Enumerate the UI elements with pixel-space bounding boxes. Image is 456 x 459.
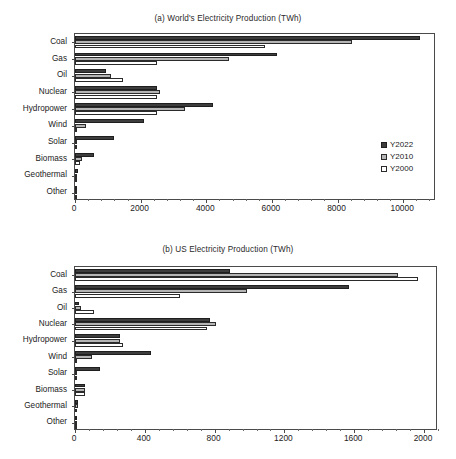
chart-title-b: (b) US Electricity Production (TWh) [0, 245, 456, 254]
y-tick [72, 308, 75, 309]
x-tick-minor [382, 429, 383, 431]
x-tick-minor [351, 199, 352, 201]
y-tick [72, 176, 75, 177]
x-axis-labels-b: 0400800120016002000 [0, 433, 456, 447]
x-tick-minor [229, 429, 230, 431]
x-axis-tick-label: 400 [137, 433, 151, 443]
legend-swatch-y2010-icon [381, 154, 387, 160]
y-tick [72, 42, 75, 43]
chart-panel-a: (a) World's Electricity Production (TWh)… [0, 0, 456, 230]
x-tick-minor [438, 429, 439, 431]
y-axis-labels-a: CoalGasOilNuclearHydropowerWindSolarBiom… [0, 33, 71, 200]
x-tick-minor [193, 199, 194, 201]
x-tick-minor [396, 429, 397, 431]
x-tick-minor [312, 429, 313, 431]
y-axis-label-geothermal: Geothermal [24, 170, 67, 179]
x-tick-minor [128, 199, 129, 201]
x-tick-minor [285, 199, 286, 201]
x-axis-tick-label: 800 [207, 433, 221, 443]
x-tick-minor [410, 429, 411, 431]
y-tick [72, 357, 75, 358]
x-tick-minor [117, 429, 118, 431]
x-tick-minor [173, 429, 174, 431]
y-axis-label-coal: Coal [50, 270, 67, 279]
y-axis-label-geothermal: Geothermal [24, 401, 67, 410]
legend-label-y2000: Y2000 [390, 165, 413, 173]
y-tick [72, 59, 75, 60]
y-axis-label-oil: Oil [57, 70, 67, 79]
y-axis-label-coal: Coal [50, 37, 67, 46]
y-axis-label-other: Other [47, 187, 67, 196]
y-axis-label-wind: Wind [48, 120, 67, 129]
y-tick [72, 193, 75, 194]
y-tick [72, 292, 75, 293]
x-tick-minor [429, 199, 430, 201]
x-axis-tick-label: 2000 [414, 433, 433, 443]
x-tick-minor [187, 429, 188, 431]
x-tick-minor [89, 429, 90, 431]
y-tick [72, 126, 75, 127]
legend-label-y2022: Y2022 [390, 141, 413, 149]
x-tick-minor [114, 199, 115, 201]
x-axis-tick-label: 0 [72, 203, 77, 213]
y-axis-label-hydropower: Hydropower [23, 104, 67, 113]
x-tick-minor [364, 199, 365, 201]
y-axis-label-oil: Oil [57, 303, 67, 312]
x-tick-minor [377, 199, 378, 201]
y-tick [72, 275, 75, 276]
x-tick-minor [180, 199, 181, 201]
x-axis-tick-label: 6000 [262, 203, 281, 213]
y-tick [72, 341, 75, 342]
chart-panel-b: (b) US Electricity Production (TWh) Coal… [0, 230, 456, 459]
x-axis-tick-label: 8000 [327, 203, 346, 213]
legend-a: Y2022 Y2010 Y2000 [381, 139, 413, 175]
y-axis-label-gas: Gas [52, 54, 67, 63]
x-tick-minor [243, 429, 244, 431]
y-tick [72, 76, 75, 77]
legend-label-y2010: Y2010 [390, 153, 413, 161]
y-axis-label-solar: Solar [48, 368, 67, 377]
y-axis-label-nuclear: Nuclear [39, 87, 67, 96]
x-tick-minor [311, 199, 312, 201]
chart-title-a: (a) World's Electricity Production (TWh) [0, 14, 456, 23]
x-tick-minor [257, 429, 258, 431]
x-tick-minor [390, 199, 391, 201]
x-axis-labels-a: 0200040006000800010000 [0, 203, 456, 217]
x-axis-tick-label: 2000 [130, 203, 149, 213]
x-tick-minor [259, 199, 260, 201]
x-tick-minor [324, 199, 325, 201]
y-tick [72, 92, 75, 93]
x-tick-minor [416, 199, 417, 201]
y-axis-label-biomass: Biomass [36, 154, 67, 163]
x-axis-tick-label: 0 [72, 433, 77, 443]
legend-swatch-y2000-icon [381, 166, 387, 172]
y-axis-label-gas: Gas [52, 286, 67, 295]
y-tick [72, 143, 75, 144]
y-tick [72, 374, 75, 375]
x-tick-minor [159, 429, 160, 431]
x-tick-minor [270, 429, 271, 431]
y-axis-label-solar: Solar [48, 137, 67, 146]
y-tick [72, 159, 75, 160]
x-tick-minor [101, 199, 102, 201]
y-tick [72, 324, 75, 325]
x-axis-ticks-b [75, 267, 436, 429]
x-axis-tick-label: 1200 [274, 433, 293, 443]
x-tick-minor [298, 429, 299, 431]
x-tick-minor [201, 429, 202, 431]
x-tick-minor [103, 429, 104, 431]
x-axis-tick-label: 10000 [391, 203, 414, 213]
y-tick [72, 406, 75, 407]
y-tick [72, 423, 75, 424]
y-axis-label-other: Other [47, 417, 67, 426]
legend-item-y2000: Y2000 [381, 163, 413, 175]
y-axis-label-hydropower: Hydropower [23, 335, 67, 344]
y-axis-labels-b: CoalGasOilNuclearHydropowerWindSolarBiom… [0, 266, 71, 430]
legend-swatch-y2022-icon [381, 142, 387, 148]
y-axis-label-nuclear: Nuclear [39, 319, 67, 328]
x-tick-minor [368, 429, 369, 431]
x-tick-minor [246, 199, 247, 201]
y-tick [72, 109, 75, 110]
x-axis-tick-label: 1600 [344, 433, 363, 443]
x-tick-minor [131, 429, 132, 431]
